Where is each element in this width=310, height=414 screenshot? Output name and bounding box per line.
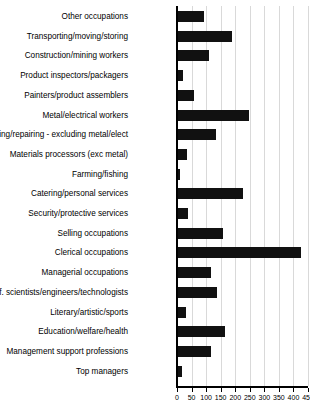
- x-tick: [293, 388, 294, 392]
- category-label: Literary/artistic/sports: [50, 303, 128, 322]
- category-label: Prof. scientists/engineers/technologists: [0, 283, 128, 302]
- category-label: Transporting/moving/storing: [27, 27, 128, 46]
- category-label: Education/welfare/health: [38, 322, 128, 341]
- chart-bar-row: Metal/electrical workers: [0, 106, 310, 125]
- category-label: Catering/personal services: [31, 184, 128, 203]
- chart-bar-row: Materials processors (exc metal): [0, 145, 310, 164]
- chart-bar-row: Farming/fishing: [0, 165, 310, 184]
- chart-bar-row: Other occupations: [0, 7, 310, 26]
- category-label: Making/repairing - excluding metal/elect: [0, 125, 128, 144]
- x-tick-label: 50: [188, 393, 196, 402]
- bar: [177, 346, 211, 357]
- bar: [177, 50, 209, 61]
- bar: [177, 188, 243, 199]
- category-label: Management support professions: [6, 342, 128, 361]
- bar: [177, 90, 194, 101]
- category-label: Farming/fishing: [72, 165, 128, 184]
- chart-bar-row: Literary/artistic/sports: [0, 303, 310, 322]
- bar-chart: Other occupationsTransporting/moving/sto…: [0, 0, 310, 414]
- bar: [177, 31, 232, 42]
- category-label: Materials processors (exc metal): [10, 145, 128, 164]
- x-tick: [221, 388, 222, 392]
- bar: [177, 267, 211, 278]
- x-tick-label: 400: [288, 393, 300, 402]
- x-axis-tick-labels: 050100150200250300350400450: [177, 393, 308, 407]
- x-tick-label: 250: [244, 393, 256, 402]
- x-tick: [264, 388, 265, 392]
- chart-bar-row: Making/repairing - excluding metal/elect: [0, 125, 310, 144]
- x-tick-label: 450: [302, 393, 310, 402]
- category-label: Construction/mining workers: [25, 46, 128, 65]
- chart-bar-row: Top managers: [0, 362, 310, 381]
- x-tick: [192, 388, 193, 392]
- category-label: Security/protective services: [28, 204, 128, 223]
- x-tick-label: 100: [200, 393, 212, 402]
- chart-bar-row: Management support professions: [0, 342, 310, 361]
- bar: [177, 129, 216, 140]
- chart-bar-row: Catering/personal services: [0, 184, 310, 203]
- chart-bar-row: Painters/product assemblers: [0, 86, 310, 105]
- x-tick-label: 300: [258, 393, 270, 402]
- x-tick: [250, 388, 251, 392]
- x-tick: [235, 388, 236, 392]
- x-tick: [177, 388, 178, 392]
- chart-bar-row: Construction/mining workers: [0, 46, 310, 65]
- bar: [177, 11, 204, 22]
- bar: [177, 228, 223, 239]
- category-label: Managerial occupations: [42, 263, 128, 282]
- bar: [177, 326, 225, 337]
- bar: [177, 247, 301, 258]
- x-tick: [308, 388, 309, 392]
- chart-bar-row: Managerial occupations: [0, 263, 310, 282]
- bar: [177, 208, 188, 219]
- x-tick: [206, 388, 207, 392]
- bar: [177, 287, 217, 298]
- y-axis-line: [176, 6, 178, 388]
- category-label: Painters/product assemblers: [24, 86, 128, 105]
- chart-bar-row: Education/welfare/health: [0, 322, 310, 341]
- chart-bar-row: Security/protective services: [0, 204, 310, 223]
- category-label: Selling occupations: [57, 224, 128, 243]
- x-tick-label: 150: [215, 393, 227, 402]
- x-tick-label: 350: [273, 393, 285, 402]
- chart-bar-row: Selling occupations: [0, 224, 310, 243]
- x-tick-label: 0: [175, 393, 179, 402]
- category-label: Product inspectors/packagers: [20, 66, 128, 85]
- x-tick: [279, 388, 280, 392]
- chart-bar-row: Transporting/moving/storing: [0, 27, 310, 46]
- chart-bar-row: Prof. scientists/engineers/technologists: [0, 283, 310, 302]
- bar: [177, 110, 249, 121]
- category-label: Clerical occupations: [55, 243, 128, 262]
- category-label: Other occupations: [62, 7, 128, 26]
- category-label: Metal/electrical workers: [42, 106, 128, 125]
- bar: [177, 149, 187, 160]
- chart-bar-row: Product inspectors/packagers: [0, 66, 310, 85]
- chart-bar-row: Clerical occupations: [0, 243, 310, 262]
- x-tick-label: 200: [229, 393, 241, 402]
- category-label: Top managers: [76, 362, 128, 381]
- bar: [177, 307, 186, 318]
